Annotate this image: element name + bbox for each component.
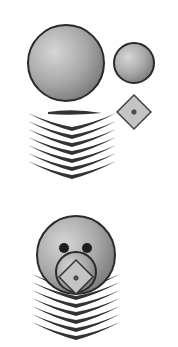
diagram-canvas [0, 0, 178, 347]
separated-parts [28, 25, 154, 179]
dot-icon [74, 276, 78, 280]
assembled-figure [32, 216, 120, 340]
feather-stack-top [28, 110, 116, 179]
large-sphere [28, 25, 104, 101]
ear-left-icon [59, 243, 69, 253]
diamond [117, 95, 151, 129]
ear-right-icon [82, 243, 92, 253]
small-sphere [114, 43, 154, 83]
dot-icon [132, 110, 136, 114]
